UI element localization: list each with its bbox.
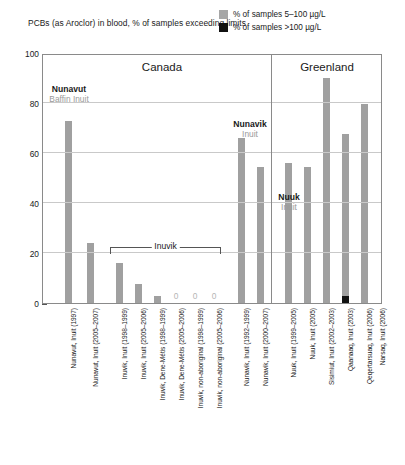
x-axis-tick-label: Inuvik, Inuit (1998–1999)	[121, 308, 128, 379]
plot-area: 000	[42, 54, 382, 304]
x-axis-tick-label: Qaanaaq, Inuit (2003)	[347, 308, 354, 371]
bar-light	[116, 263, 123, 303]
x-axis-tick-label: Inuvik, Dene-Métis (2005–2006)	[178, 308, 185, 400]
chart-legend: % of samples 5–100 µg/L % of samples >10…	[219, 10, 399, 36]
chart-title: PCBs (as Aroclor) in blood, % of samples…	[28, 18, 246, 28]
x-axis-tick-label: Nunavut, Inuit (1997)	[70, 308, 77, 369]
x-axis-tick-label: Narsaq, Inuit (2006)	[379, 308, 386, 365]
legend-swatch-dark-icon	[219, 23, 228, 32]
region-title-greenland: Greenland	[300, 61, 354, 73]
zero-value-label: 0	[212, 291, 217, 301]
bar-light	[135, 284, 142, 303]
bar-light	[342, 134, 349, 303]
gridline	[43, 102, 381, 103]
bar-light	[154, 296, 161, 304]
annotation-nunavut: NunavutBaffin Inuit	[49, 84, 88, 104]
bar-light	[323, 78, 330, 303]
x-axis-tick-label: Inuvik, non-aboriginal (2005–2006)	[216, 308, 223, 408]
annotation-nuuk: NuukInuit	[278, 192, 299, 212]
x-axis-tick-label: Nunavut, Inuit (2005–2007)	[92, 308, 99, 387]
legend-swatch-light-icon	[219, 10, 228, 19]
y-axis-tick-mark	[42, 304, 47, 305]
gridline	[43, 202, 381, 203]
y-axis-tick-label: 0	[13, 299, 39, 309]
legend-label-dark: % of samples >100 µg/L	[233, 23, 321, 32]
x-axis-tick-label: Nunavik, Inuit (2000–2007)	[262, 308, 269, 386]
bar-light	[361, 104, 368, 303]
annotation-nunavik: NunavikInuit	[233, 119, 266, 139]
gridline	[43, 152, 381, 153]
bar-light	[65, 121, 72, 304]
region-divider	[271, 55, 272, 303]
bar-light	[238, 138, 245, 303]
bar-light	[257, 167, 264, 303]
legend-item-dark: % of samples >100 µg/L	[219, 23, 399, 32]
bar-light	[304, 167, 311, 303]
x-axis-labels: Nunavut, Inuit (1997)Nunavut, Inuit (200…	[42, 308, 382, 458]
y-axis-tick-label: 60	[13, 149, 39, 159]
y-axis-tick-label: 20	[13, 249, 39, 259]
y-axis-tick-label: 40	[13, 199, 39, 209]
x-axis-tick-label: Inuvik, non-aboriginal (1998–1999)	[197, 308, 204, 408]
legend-label-light: % of samples 5–100 µg/L	[233, 10, 326, 19]
chart-root: PCBs (as Aroclor) in blood, % of samples…	[0, 0, 405, 465]
region-title-canada: Canada	[142, 61, 182, 73]
zero-value-label: 0	[174, 291, 179, 301]
bar-light	[285, 163, 292, 303]
y-axis-tick-label: 100	[13, 49, 39, 59]
bar-dark	[342, 296, 349, 304]
zero-value-label: 0	[193, 291, 198, 301]
x-axis-tick-label: Qeqertarsuaq, Inuit (2006)	[366, 308, 373, 384]
x-axis-tick-label: Nuuk, Inuit (2005)	[309, 308, 316, 360]
legend-item-light: % of samples 5–100 µg/L	[219, 10, 399, 19]
y-axis-tick-label: 80	[13, 99, 39, 109]
x-axis-tick-label: Sisimiut, Inuit (2002–2003)	[328, 308, 335, 385]
x-axis-tick-label: Inuvik, Dene-Métis (1998–1999)	[159, 308, 166, 400]
x-axis-tick-label: Nuuk, Inuit (1999–2005)	[290, 308, 297, 378]
x-axis-tick-label: Inuvik, Inuit (2005–2006)	[140, 308, 147, 379]
inuvik-bracket-label: Inuvik	[151, 241, 179, 251]
bars-layer: 000	[43, 55, 381, 303]
x-axis-tick-label: Nunavik, Inuit (1992–1999)	[243, 308, 250, 386]
